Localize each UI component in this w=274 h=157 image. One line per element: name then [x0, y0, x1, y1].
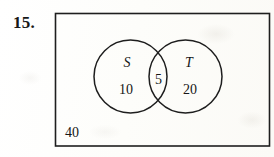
universal-set-outside-count: 40: [65, 125, 79, 140]
set-t-only-count: 20: [183, 82, 197, 97]
worksheet-figure: 15. S 10 5 T 20 40: [0, 0, 274, 157]
intersection-count: 5: [155, 72, 162, 87]
set-s-only-count: 10: [119, 82, 133, 97]
venn-diagram: S 10 5 T 20 40: [0, 0, 274, 157]
set-t-label: T: [185, 55, 194, 70]
set-s-label: S: [124, 55, 131, 70]
universal-set-rectangle: [56, 14, 270, 147]
